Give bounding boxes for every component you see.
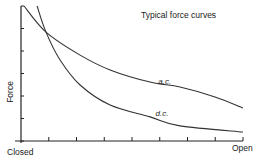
x-label-open: Open bbox=[232, 143, 253, 153]
dc-curve bbox=[37, 6, 243, 132]
y-axis-label: Force bbox=[5, 81, 15, 103]
ac-curve bbox=[24, 6, 243, 108]
curve-label-dc: d.c. bbox=[156, 109, 169, 118]
curves bbox=[24, 6, 243, 132]
x-label-closed: Closed bbox=[7, 147, 34, 157]
axes bbox=[15, 6, 243, 143]
curve-label-ac: a.c. bbox=[158, 77, 171, 86]
chart-title: Typical force curves bbox=[141, 10, 216, 20]
force-curves-chart: Typical force curves Force Closed Open a… bbox=[0, 0, 260, 164]
